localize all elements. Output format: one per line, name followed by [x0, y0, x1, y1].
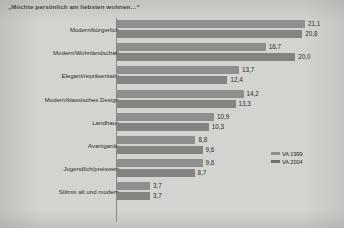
bar-va-1999	[117, 66, 239, 74]
bar-value-label: 20,8	[305, 30, 317, 38]
bar-value-label: 9,6	[206, 159, 215, 167]
plot-area: Modern/bürgerlich21,120,8Modern/Wohnland…	[0, 17, 344, 223]
chart-title: „Möchte persönlich am liebsten wohnen…“	[8, 3, 140, 10]
bar-value-label: 8,7	[198, 169, 207, 177]
chart-category-row: Modern/bürgerlich21,120,8	[0, 19, 344, 42]
category-label: Modern/bürgerlich	[0, 26, 119, 33]
bar-value-label: 13,7	[242, 66, 254, 74]
bar-value-label: 14,2	[247, 90, 259, 98]
bar-value-label: 3,7	[153, 192, 162, 200]
category-label: Stilmix alt und modern	[0, 188, 119, 195]
bar-value-label: 8,8	[198, 136, 207, 144]
category-label: Modern/Wohnlandschaft	[0, 49, 119, 56]
legend-swatch-icon	[271, 152, 280, 156]
category-label: Avantgarde	[0, 142, 119, 149]
bar-va-1999	[117, 136, 195, 144]
chart-category-row: Modern/klassisches Design14,213,3	[0, 89, 344, 112]
legend-swatch-icon	[271, 160, 280, 164]
bar-va-1999	[117, 43, 266, 51]
bar-va-2004	[117, 123, 209, 131]
legend-item-va-2004: VA 2004	[271, 158, 303, 165]
bar-value-label: 9,6	[206, 146, 215, 154]
bar-va-1999	[117, 113, 214, 121]
bar-value-label: 10,3	[212, 123, 224, 131]
bar-va-2004	[117, 76, 227, 84]
legend-item-va-1999: VA 1999	[271, 150, 303, 157]
legend-label: VA 1999	[282, 151, 303, 157]
bar-va-2004	[117, 192, 150, 200]
bar-va-1999	[117, 90, 244, 98]
bar-value-label: 21,1	[308, 20, 320, 28]
legend-label: VA 2004	[282, 159, 303, 165]
bar-va-2004	[117, 30, 302, 38]
category-label: Landhaus	[0, 119, 119, 126]
bar-va-2004	[117, 100, 236, 108]
chart-category-row: Modern/Wohnlandschaft16,720,0	[0, 42, 344, 65]
category-label: Jugendlich/preiswert	[0, 165, 119, 172]
bar-value-label: 12,4	[230, 76, 242, 84]
chart-category-row: Landhaus10,910,3	[0, 112, 344, 135]
chart-legend: VA 1999 VA 2004	[271, 150, 303, 166]
bar-va-2004	[117, 169, 195, 177]
chart-container: „Möchte persönlich am liebsten wohnen…“ …	[0, 0, 344, 228]
bar-value-label: 3,7	[153, 182, 162, 190]
bar-value-label: 16,7	[269, 43, 281, 51]
bar-value-label: 13,3	[239, 100, 251, 108]
bar-value-label: 20,0	[298, 53, 310, 61]
bar-va-1999	[117, 159, 203, 167]
bar-va-1999	[117, 20, 305, 28]
bar-va-2004	[117, 146, 203, 154]
bar-va-1999	[117, 182, 150, 190]
bar-va-2004	[117, 53, 295, 61]
bar-value-label: 10,9	[217, 113, 229, 121]
chart-category-row: Elegant/repräsentativ13,712,4	[0, 65, 344, 88]
category-label: Elegant/repräsentativ	[0, 72, 119, 79]
chart-category-row: Stilmix alt und modern3,73,7	[0, 181, 344, 204]
category-label: Modern/klassisches Design	[0, 96, 119, 103]
